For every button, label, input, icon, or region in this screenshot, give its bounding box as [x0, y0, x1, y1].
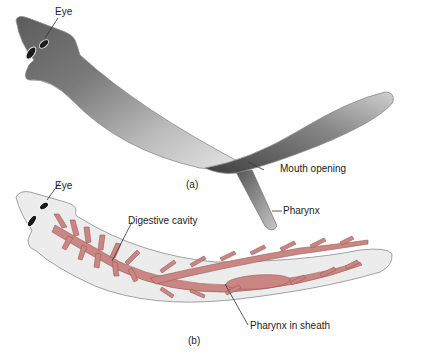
pharynx-shape [236, 170, 277, 230]
label-eye-a: Eye [55, 6, 72, 17]
panel-a-worm [16, 16, 393, 230]
worm-tail-a [205, 92, 393, 173]
label-pharynx: Pharynx [283, 205, 320, 216]
label-digestive-cavity: Digestive cavity [128, 215, 197, 226]
worm-body-a [16, 16, 245, 169]
panel-b-worm [16, 192, 392, 303]
caption-a: (a) [186, 179, 198, 190]
caption-b: (b) [188, 335, 200, 346]
label-eye-b: Eye [55, 180, 72, 191]
label-mouth-opening: Mouth opening [280, 163, 346, 174]
label-pharynx-in-sheath: Pharynx in sheath [250, 320, 330, 331]
